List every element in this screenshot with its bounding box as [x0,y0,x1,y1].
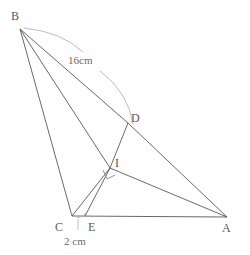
segment-BI [20,29,110,168]
vertex-label-I: I [115,157,119,169]
vertex-label-D: D [131,112,140,124]
geometry-figure: B C E A D I 16cm 2 cm [0,0,250,255]
vertex-label-B: B [11,10,19,22]
vertex-label-A: A [222,222,231,234]
vertex-label-E: E [88,221,95,233]
segment-CA [72,216,227,217]
segment-CI [72,168,110,216]
measure-label-2cm: 2 cm [64,236,86,247]
measure-label-16cm: 16cm [68,55,92,66]
segment-DI [110,123,128,168]
segment-IA [110,168,227,217]
segment-BD [20,29,128,123]
vertex-label-C: C [55,221,63,233]
segment-BC [20,29,72,216]
segment-DA [128,123,227,217]
figure-canvas [0,0,250,255]
segment-IE [85,168,110,216]
arc-16cm-lower [100,71,133,124]
arc-2cm [71,213,86,218]
